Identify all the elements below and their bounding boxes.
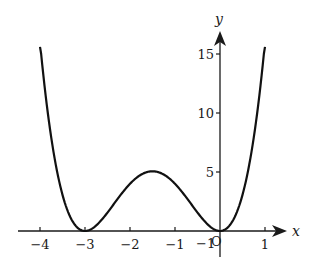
function-graph: x −4−3−2−11−1 y 51015 O [0, 0, 316, 265]
origin-label: O [211, 234, 222, 249]
x-tick-label: 1 [261, 237, 269, 252]
function-curve [40, 47, 265, 231]
y-tick-label: 10 [197, 106, 214, 121]
x-tick-label: −2 [120, 237, 139, 252]
y-tick-label: 5 [206, 165, 214, 180]
x-tick-label: −4 [30, 237, 49, 252]
x-tick-label: −3 [75, 237, 94, 252]
x-axis-label: x [292, 223, 300, 239]
x-tick-label: −1 [165, 237, 184, 252]
y-axis-label: y [214, 11, 224, 27]
y-tick-label: 15 [197, 47, 214, 62]
x-axis: x −4−3−2−11−1 [18, 223, 300, 252]
y-ticks: 51015 [197, 47, 220, 180]
y-axis: y 51015 [197, 11, 226, 257]
